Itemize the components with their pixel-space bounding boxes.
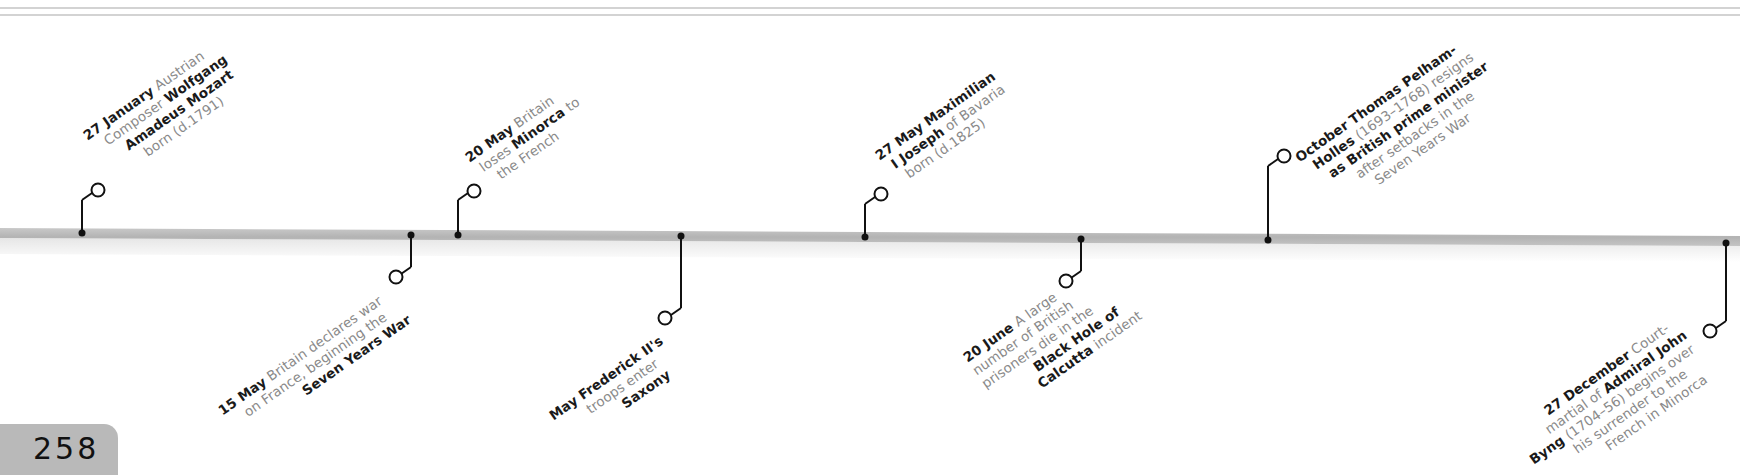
page-number: 258 (33, 431, 99, 466)
marker-pelham-holles (1265, 150, 1291, 244)
book-page: 27 January Austrian Composer Wolfgang Am… (0, 0, 1740, 475)
